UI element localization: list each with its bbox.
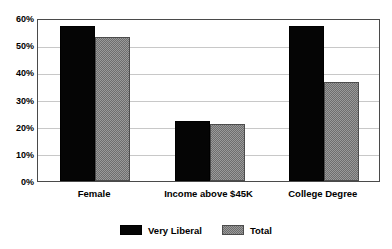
bar-total xyxy=(210,124,245,181)
bar-very-liberal xyxy=(175,121,210,181)
y-tick-label: 20% xyxy=(0,123,34,133)
bar-group xyxy=(60,20,130,181)
bar-total xyxy=(324,82,359,181)
x-tick-label: College Degree xyxy=(266,188,380,200)
bar-chart: 0%10%20%30%40%50%60% FemaleIncome above … xyxy=(0,0,392,249)
x-axis: FemaleIncome above $45KCollege Degree xyxy=(37,188,380,204)
y-tick-label: 10% xyxy=(0,150,34,160)
y-tick-label: 30% xyxy=(0,96,34,106)
bar-group xyxy=(289,20,359,181)
plot-area xyxy=(37,19,380,182)
y-tick-label: 40% xyxy=(0,68,34,78)
chart-legend: Very LiberalTotal xyxy=(0,222,392,238)
y-tick-label: 60% xyxy=(0,14,34,24)
legend-label: Total xyxy=(250,225,272,236)
gray-hatched-swatch xyxy=(222,225,244,235)
y-tick-label: 50% xyxy=(0,41,34,51)
solid-black-swatch xyxy=(120,225,142,235)
bar-group xyxy=(175,20,245,181)
x-tick-label: Income above $45K xyxy=(151,188,265,200)
bar-very-liberal xyxy=(289,26,324,181)
legend-item-very-liberal[interactable]: Very Liberal xyxy=(120,225,202,236)
y-tick-label: 0% xyxy=(0,177,34,187)
bar-total xyxy=(95,37,130,181)
legend-label: Very Liberal xyxy=(148,225,202,236)
y-axis: 0%10%20%30%40%50%60% xyxy=(0,0,34,249)
bar-very-liberal xyxy=(60,26,95,181)
x-tick-label: Female xyxy=(37,188,151,200)
legend-item-total[interactable]: Total xyxy=(222,225,272,236)
